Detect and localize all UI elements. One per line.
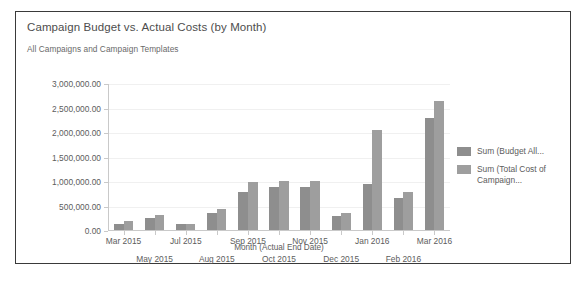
bar-group <box>207 84 226 231</box>
y-tick-label: 3,000,000.00 <box>52 79 101 89</box>
bar[interactable] <box>372 130 382 231</box>
chart-title: Campaign Budget vs. Actual Costs (by Mon… <box>27 21 267 33</box>
plot-area: 0.00500,000.001,000,000.001,500,000.002,… <box>108 84 450 231</box>
x-tick-mark <box>403 231 404 235</box>
x-tick-label: Oct 2015 <box>262 254 296 264</box>
legend-label: Sum (Budget All... <box>477 146 565 157</box>
x-tick-mark <box>155 231 156 235</box>
bar-group <box>269 84 288 231</box>
bar[interactable] <box>279 181 289 231</box>
legend-swatch <box>457 165 471 174</box>
x-tick-mark <box>124 231 125 235</box>
bar[interactable] <box>248 182 258 231</box>
bar-group <box>394 84 413 231</box>
x-axis-line <box>108 230 450 231</box>
bar[interactable] <box>300 187 310 231</box>
bar[interactable] <box>425 118 435 231</box>
y-tick-label: 2,500,000.00 <box>52 104 101 114</box>
x-tick-label: Dec 2015 <box>323 254 359 264</box>
y-tick-label: 0.00 <box>85 226 101 236</box>
bar[interactable] <box>269 187 279 231</box>
x-tick-mark <box>310 231 311 235</box>
x-tick-mark <box>341 231 342 235</box>
bar[interactable] <box>207 213 217 231</box>
bar[interactable] <box>394 198 404 231</box>
legend-item[interactable]: Sum (Total Cost of Campaign... <box>457 164 565 186</box>
y-tick-label: 2,000,000.00 <box>52 128 101 138</box>
bar-group <box>176 84 195 231</box>
bar[interactable] <box>238 192 248 231</box>
bar[interactable] <box>434 101 444 231</box>
bar-group <box>300 84 319 231</box>
y-tick-label: 1,000,000.00 <box>52 177 101 187</box>
x-tick-label: Feb 2016 <box>386 254 421 264</box>
bar-group <box>114 84 133 231</box>
x-tick-mark <box>279 231 280 235</box>
bar-group <box>145 84 164 231</box>
x-tick-mark <box>217 231 218 235</box>
bar-group <box>238 84 257 231</box>
chart-panel: Campaign Budget vs. Actual Costs (by Mon… <box>15 11 571 264</box>
bar-group <box>425 84 444 231</box>
bar-group <box>332 84 351 231</box>
plot-surface: 0.00500,000.001,000,000.001,500,000.002,… <box>108 84 450 231</box>
y-tick-label: 1,500,000.00 <box>52 153 101 163</box>
bar[interactable] <box>363 184 373 231</box>
x-axis-title: Month (Actual End Date) <box>108 243 450 252</box>
chart-subtitle: All Campaigns and Campaign Templates <box>27 44 179 54</box>
bar[interactable] <box>332 216 342 231</box>
bar[interactable] <box>155 215 165 231</box>
y-axis-line <box>108 84 109 231</box>
legend-swatch <box>457 147 471 156</box>
legend-label: Sum (Total Cost of Campaign... <box>477 164 565 186</box>
x-tick-mark <box>248 231 249 235</box>
x-tick-mark <box>186 231 187 235</box>
y-tick-label: 500,000.00 <box>59 202 101 212</box>
x-tick-mark <box>372 231 373 235</box>
chart-legend: Sum (Budget All...Sum (Total Cost of Cam… <box>457 146 565 191</box>
bar[interactable] <box>217 209 227 231</box>
legend-item[interactable]: Sum (Budget All... <box>457 146 565 159</box>
bar[interactable] <box>341 213 351 231</box>
bar[interactable] <box>403 192 413 231</box>
x-tick-label: Aug 2015 <box>199 254 235 264</box>
x-tick-label: May 2015 <box>136 254 173 264</box>
bar[interactable] <box>310 181 320 231</box>
y-tick-mark <box>104 231 108 232</box>
x-tick-mark <box>434 231 435 235</box>
bar-group <box>363 84 382 231</box>
